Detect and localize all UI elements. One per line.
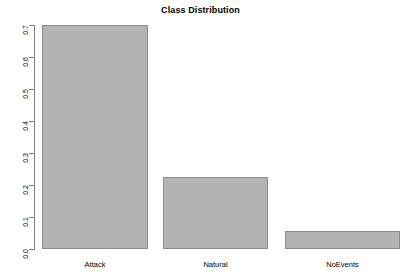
bar-natural[interactable]	[163, 177, 268, 249]
y-tick-mark-7	[29, 25, 34, 26]
y-tick-label-3: 0.3	[22, 153, 30, 163]
x-axis-label-natural: Natural	[163, 260, 268, 269]
plot-area: 0.0 0.1 0.2 0.3 0.4 0.5	[0, 0, 401, 280]
y-tick-mark-2	[29, 185, 34, 186]
y-tick-mark-0	[29, 249, 34, 250]
bar-chart-figure: Class Distribution 0.0 0.1 0.2 0.3	[0, 0, 401, 280]
bar-attack[interactable]	[42, 25, 148, 249]
y-axis: 0.0 0.1 0.2 0.3 0.4 0.5	[0, 0, 40, 280]
y-tick-label-5: 0.5	[22, 89, 30, 99]
x-axis-label-noevents: NoEvents	[285, 260, 400, 269]
y-tick-mark-4	[29, 121, 34, 122]
bar-noevents[interactable]	[285, 231, 400, 249]
y-tick-label-4: 0.4	[22, 121, 30, 131]
y-tick-mark-3	[29, 153, 34, 154]
y-tick-label-1: 0.1	[22, 217, 30, 227]
y-tick-mark-6	[29, 57, 34, 58]
y-tick-label-7: 0.7	[22, 25, 30, 35]
y-axis-line	[34, 25, 35, 250]
y-tick-mark-5	[29, 89, 34, 90]
y-tick-label-6: 0.6	[22, 57, 30, 67]
y-tick-label-0: 0.0	[22, 249, 30, 259]
y-tick-label-2: 0.2	[22, 185, 30, 195]
x-axis-label-attack: Attack	[42, 260, 148, 269]
y-tick-mark-1	[29, 217, 34, 218]
